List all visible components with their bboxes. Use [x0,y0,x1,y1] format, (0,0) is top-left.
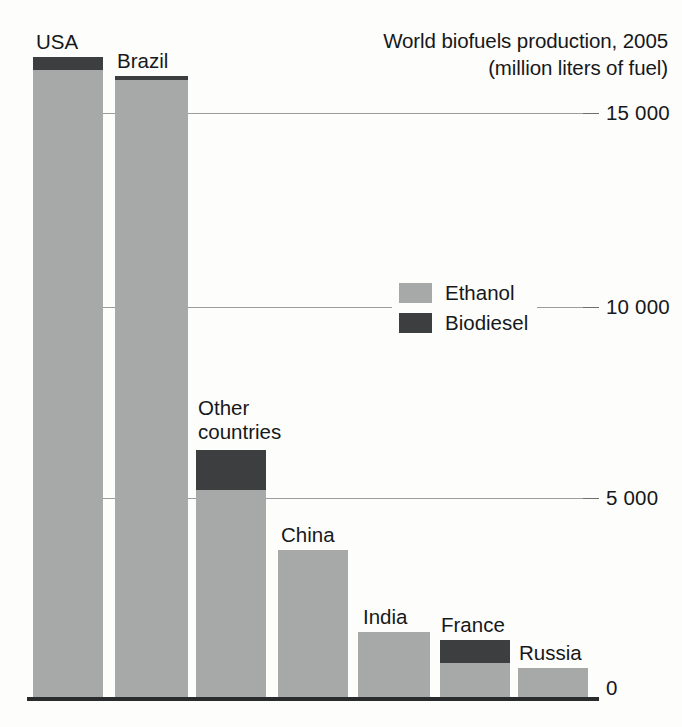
bar-usa-ethanol-segment [33,70,103,697]
bar-other-countries-biodiesel-segment [196,450,266,490]
bar-france-biodiesel-segment [440,640,510,663]
bar-label-france: France [441,613,505,637]
bar-label-china: China [281,523,335,547]
legend-label-biodiesel: Biodiesel [445,311,528,335]
bar-label-other-countries-line-2: countries [198,420,308,444]
bar-china-ethanol-segment [278,550,348,697]
x-axis-baseline [27,697,599,701]
bar-china[interactable] [278,550,348,697]
y-axis-tick-5000: 5 000 [606,486,658,510]
bar-label-other-countries-line-1: Other [198,396,308,420]
biofuels-bar-chart: World biofuels production, 2005 (million… [0,0,682,727]
bar-france[interactable] [440,640,510,697]
plot-area: 15 000 10 000 5 000 0 USA Brazil Other c… [0,0,682,727]
tick-stub-15000 [583,113,599,114]
bar-label-usa: USA [36,30,78,54]
bar-india[interactable] [358,632,430,697]
legend-swatch-ethanol [399,283,432,303]
bar-india-ethanol-segment [358,632,430,697]
bar-usa-biodiesel-segment [33,57,103,70]
bar-usa[interactable] [33,57,103,697]
legend: Ethanol Biodiesel [399,278,528,338]
y-axis-tick-10000: 10 000 [606,295,670,319]
y-axis-tick-15000: 15 000 [606,101,670,125]
legend-label-ethanol: Ethanol [445,281,515,305]
legend-swatch-biodiesel [399,313,432,333]
bar-label-russia: Russia [519,641,582,665]
tick-stub-10000 [583,307,599,308]
tick-stub-5000 [583,498,599,499]
bar-france-ethanol-segment [440,663,510,697]
bar-russia-ethanol-segment [518,668,588,697]
bar-other-countries-ethanol-segment [196,490,266,697]
bar-label-brazil: Brazil [117,49,168,73]
bar-russia[interactable] [518,668,588,697]
legend-item-ethanol[interactable]: Ethanol [399,278,528,308]
bar-brazil[interactable] [115,76,188,697]
bar-brazil-ethanol-segment [115,80,188,697]
bar-label-other-countries: Other countries [198,396,308,444]
bar-other-countries[interactable] [196,450,266,697]
bar-label-india: India [363,605,407,629]
legend-item-biodiesel[interactable]: Biodiesel [399,308,528,338]
y-axis-tick-0: 0 [606,676,618,700]
